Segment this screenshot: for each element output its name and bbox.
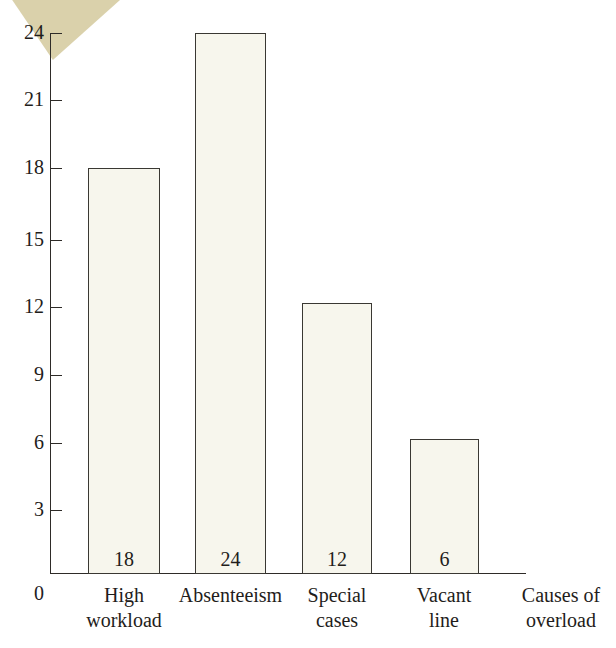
bar-vacant-line[interactable]: 6 <box>410 439 479 574</box>
tick-mark <box>51 443 62 444</box>
category-label-line2: line <box>394 608 494 633</box>
tick-mark <box>51 100 62 101</box>
category-label-line1: Vacant <box>394 583 494 608</box>
y-axis-tick-label: 18 <box>0 157 44 177</box>
bar-value-label: 24 <box>196 549 265 569</box>
x-axis-title: Causes of overload <box>506 583 616 633</box>
bar-value-label: 6 <box>411 549 478 569</box>
y-axis-tick-label: 3 <box>0 499 44 519</box>
y-axis-tick-label-zero: 0 <box>28 583 50 603</box>
bar-absenteeism[interactable]: 24 <box>195 33 266 574</box>
y-axis-tick-label: 12 <box>0 296 44 316</box>
tick-mark <box>51 240 62 241</box>
tick-mark <box>51 307 62 308</box>
y-axis-tick-label: 15 <box>0 229 44 249</box>
y-axis-tick-label: 24 <box>0 22 44 42</box>
x-axis-title-line1: Causes of <box>506 583 616 608</box>
category-label-line2: workload <box>74 608 174 633</box>
bar-chart: 24 21 18 15 12 9 6 3 0 18 24 12 6 <box>0 0 616 648</box>
category-label-line2: cases <box>287 608 387 633</box>
tick-mark <box>51 168 62 169</box>
y-axis-tick-label: 9 <box>0 364 44 384</box>
category-label-line1: Absenteeism <box>165 583 296 608</box>
y-axis-line <box>50 33 51 574</box>
bar-value-label: 12 <box>303 549 371 569</box>
x-axis-category-special-cases: Special cases <box>287 583 387 633</box>
tick-mark <box>51 33 62 34</box>
tick-mark <box>51 375 62 376</box>
bar-high-workload[interactable]: 18 <box>88 168 160 574</box>
y-axis-tick-label: 6 <box>0 432 44 452</box>
category-label-line1: High <box>74 583 174 608</box>
x-axis-category-absenteeism: Absenteeism <box>165 583 296 608</box>
x-axis-category-high-workload: High workload <box>74 583 174 633</box>
y-axis-tick-label: 21 <box>0 89 44 109</box>
x-axis-category-vacant-line: Vacant line <box>394 583 494 633</box>
bar-special-cases[interactable]: 12 <box>302 303 372 574</box>
category-label-line1: Special <box>287 583 387 608</box>
bar-value-label: 18 <box>89 549 159 569</box>
tick-mark <box>51 510 62 511</box>
x-axis-title-line2: overload <box>506 608 616 633</box>
